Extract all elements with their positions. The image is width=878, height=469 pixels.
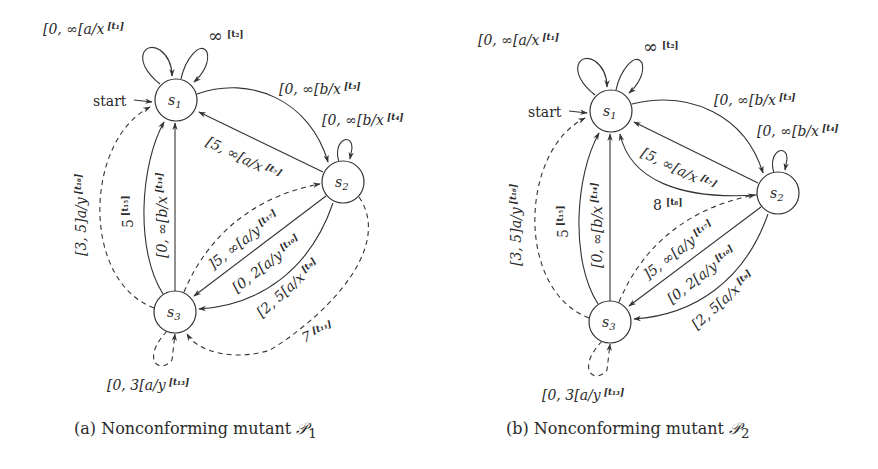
label-t14-a: [0, ∞[b/x[t₁₄] bbox=[154, 172, 170, 258]
label-t7-a: [5, ∞[a/x[t₇] bbox=[204, 133, 284, 183]
diagram-a: start s1 s2 bbox=[43, 21, 404, 393]
start-label-b: start bbox=[528, 104, 562, 120]
label-t11-a: 7[t₁₁] bbox=[299, 319, 335, 346]
state-s1-a[interactable]: s1 bbox=[155, 79, 197, 121]
label-t2-b: ∞[t₂] bbox=[643, 36, 679, 57]
edge-t2-b bbox=[616, 59, 643, 93]
start-label-a: start bbox=[93, 93, 127, 109]
label-t7-b: [5, ∞[a/x[t₇] bbox=[639, 144, 719, 194]
edge-t13-b bbox=[589, 341, 610, 376]
label-t4-a: [0, ∞[b/x[t₄] bbox=[322, 112, 404, 128]
label-t15-a: 5[t₁₅] bbox=[120, 196, 136, 228]
label-t1-a: [0, ∞[a/x[t₁] bbox=[43, 21, 124, 37]
edge-t2-a bbox=[181, 48, 208, 82]
label-t1-b: [0, ∞[a/x[t₁] bbox=[478, 32, 559, 48]
edge-t4-b bbox=[773, 151, 787, 173]
caption-a: (a) Nonconforming mutant 𝒫1 bbox=[74, 419, 317, 441]
label-t13-a: [0, 3[a/y[t₁₃] bbox=[107, 377, 189, 393]
figure-canvas: start s1 s2 bbox=[0, 0, 878, 469]
label-t14-b: [0, ∞[b/x[t₁₄] bbox=[589, 182, 605, 268]
edge-t1-a bbox=[143, 47, 172, 84]
start-arrow-b bbox=[569, 111, 587, 113]
state-s1-b[interactable]: s1 bbox=[590, 90, 632, 132]
caption-b: (b) Nonconforming mutant 𝒫2 bbox=[506, 419, 750, 441]
label-t4-b: [0, ∞[b/x[t₄] bbox=[757, 123, 839, 139]
label-t16-a: [3, 5]a/y[t₁₆] bbox=[73, 174, 89, 256]
diagram-b: start s1 s2 s3 [0, ∞[a/x[t₁] ∞[t₂] [0, ∞… bbox=[478, 32, 839, 403]
edge-t4-a bbox=[338, 140, 352, 162]
label-t3-b: [0, ∞[b/x[t₃] bbox=[714, 92, 796, 108]
label-t2-a: ∞[t₂] bbox=[208, 25, 244, 46]
state-s3-b[interactable]: s3 bbox=[589, 301, 631, 343]
edge-t1-b bbox=[578, 58, 607, 95]
state-s3-a[interactable]: s3 bbox=[154, 291, 196, 333]
state-s2-a[interactable]: s2 bbox=[322, 161, 364, 203]
label-t13-b: [0, 3[a/y[t₁₃] bbox=[542, 387, 624, 403]
edge-t10-b bbox=[629, 207, 761, 306]
start-arrow-a bbox=[134, 100, 152, 102]
label-t3-a: [0, ∞[b/x[t₃] bbox=[279, 81, 361, 97]
label-t16-b: [3, 5]a/y[t₁₆] bbox=[508, 184, 524, 266]
state-s2-b[interactable]: s2 bbox=[757, 172, 799, 214]
label-t15-b: 5[t₁₅] bbox=[555, 206, 571, 238]
edge-t13-a bbox=[154, 331, 175, 366]
edge-t11-a bbox=[187, 197, 368, 355]
label-t8-b: 8[t₈] bbox=[653, 197, 683, 213]
